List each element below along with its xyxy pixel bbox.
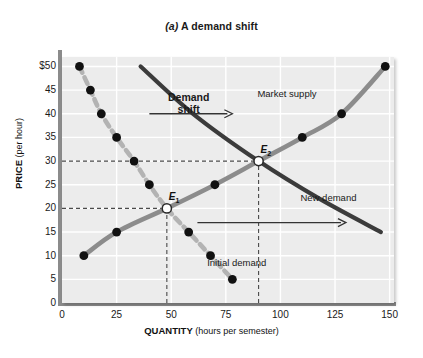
y-tick-label: 0 — [16, 297, 56, 308]
data-point — [79, 251, 88, 260]
figure-label: (a) — [165, 20, 178, 32]
y-tick-label: $50 — [16, 60, 56, 71]
data-point — [86, 86, 95, 95]
figure-demand-shift: (a) A demand shift $50454035302520151050… — [0, 0, 423, 358]
x-tick-label: 0 — [37, 309, 87, 320]
e2-subscript: 2 — [267, 150, 271, 157]
annotation-initial-demand: Initial demand — [207, 257, 266, 268]
x-axis-title-rest: (hours per semester) — [193, 326, 279, 336]
annotation-new-demand: New demand — [300, 192, 356, 203]
data-point — [228, 275, 237, 284]
x-axis-tick-labels: 0255075100125150 — [0, 309, 423, 325]
equilibrium-point-e2 — [254, 156, 263, 165]
data-point — [337, 109, 346, 118]
e1-letter: E — [169, 191, 176, 202]
demand-shift-line1: Demand — [168, 91, 209, 103]
x-tick-label: 75 — [201, 309, 251, 320]
x-tick-label: 125 — [310, 309, 360, 320]
demand-shift-line2: shift — [178, 103, 200, 115]
x-tick-label: 150 — [365, 309, 415, 320]
y-tick-label: 5 — [16, 273, 56, 284]
y-tick-label: 15 — [16, 226, 56, 237]
y-axis-title-bold: PRICE — [13, 160, 24, 189]
x-tick-label: 100 — [255, 309, 305, 320]
data-point — [210, 180, 219, 189]
data-point — [75, 62, 84, 71]
data-point — [112, 228, 121, 237]
curve-initial-demand — [79, 66, 232, 279]
data-point — [97, 109, 106, 118]
y-tick-label: 10 — [16, 250, 56, 261]
data-point — [381, 62, 390, 71]
e1-subscript: 1 — [176, 197, 180, 204]
annotation-market-supply: Market supply — [257, 88, 316, 99]
figure-title-text: A demand shift — [181, 20, 258, 32]
x-axis-title-bold: QUANTITY — [144, 325, 193, 336]
data-point — [145, 180, 154, 189]
data-point — [184, 228, 193, 237]
y-axis-title: PRICE (per hour) — [13, 94, 24, 214]
x-tick-label: 25 — [92, 309, 142, 320]
data-point — [112, 133, 121, 142]
equilibrium-point-e1 — [162, 204, 171, 213]
figure-title: (a) A demand shift — [0, 20, 423, 32]
data-point — [298, 133, 307, 142]
equilibrium-label-e1: E1 — [169, 191, 180, 204]
curves — [79, 66, 385, 279]
plot-area: Market supply New demand Initial demand … — [62, 57, 394, 303]
annotation-demand-shift: Demand shift — [168, 91, 209, 115]
data-point — [130, 157, 139, 166]
y-axis-title-rest: (per hour) — [14, 118, 24, 160]
x-axis-title: QUANTITY (hours per semester) — [0, 325, 423, 336]
equilibrium-label-e2: E2 — [261, 144, 272, 157]
x-tick-label: 50 — [146, 309, 196, 320]
